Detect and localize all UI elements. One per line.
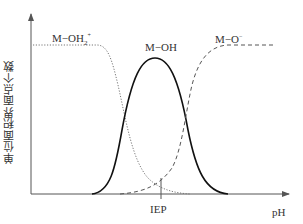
label-m-oh2-sub: 2: [84, 39, 88, 47]
series-m-oh: [92, 58, 228, 194]
y-axis-label: 单位面积界面点个数: [3, 60, 17, 164]
label-m-oh2-text: M−OH: [52, 32, 84, 44]
label-iep: IEP: [150, 203, 167, 215]
label-m-oh: M−OH: [145, 41, 177, 53]
x-axis-label: pH: [272, 206, 285, 218]
label-m-o-minus: M−O−: [215, 30, 242, 45]
series-m-oh2-plus: [33, 45, 190, 194]
chart-canvas: [0, 0, 303, 224]
label-m-o-sup: −: [239, 33, 242, 39]
label-m-oh2-plus: M−OH2+: [52, 29, 91, 49]
label-m-o-text: M−O: [215, 33, 239, 45]
label-m-oh2-sup: +: [87, 32, 90, 38]
